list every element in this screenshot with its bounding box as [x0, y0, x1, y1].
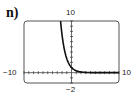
axes: [24, 21, 119, 83]
function-curve: [61, 21, 119, 73]
plot-area: [0, 0, 136, 100]
